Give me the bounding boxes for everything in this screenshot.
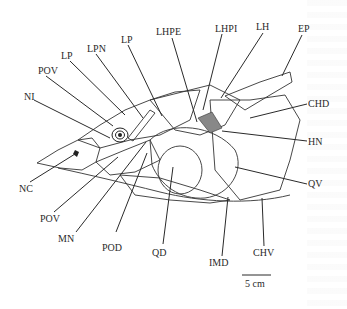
leader-lhpi: [203, 34, 222, 110]
label-pov-top: POV: [38, 65, 59, 76]
label-imd: IMD: [209, 257, 228, 268]
leader-ni: [34, 100, 110, 138]
epaxial-band: [225, 72, 292, 110]
hyohyoid-region: [210, 95, 300, 200]
scale-bar: 5 cm: [242, 275, 271, 289]
leader-lh: [221, 33, 263, 98]
leader-lhpe: [172, 38, 197, 122]
eye: [112, 128, 128, 142]
snout-region: [37, 138, 100, 170]
anatomy-diagram: NI POV LP LPN LP LHPE LHPI LH EP CHD HN …: [0, 0, 347, 309]
leader-lp-left: [70, 61, 125, 115]
scale-bar-label: 5 cm: [245, 278, 265, 289]
leader-chd: [250, 104, 307, 118]
label-lpn: LPN: [87, 43, 106, 54]
label-lhpi: LHPI: [215, 23, 237, 34]
label-chv: CHV: [253, 247, 275, 258]
qd-oval: [158, 146, 202, 194]
label-ni: NI: [24, 91, 35, 102]
label-lh: LH: [256, 21, 269, 32]
leader-lines: [30, 33, 307, 256]
label-ep: EP: [298, 23, 310, 34]
dorsal-head-muscle: [78, 90, 200, 148]
label-mn: MN: [58, 233, 74, 244]
leader-hn: [222, 131, 307, 141]
label-pod: POD: [102, 242, 122, 253]
levator-region: [150, 85, 240, 135]
opercular-region: [150, 128, 238, 199]
leader-qv: [235, 167, 307, 184]
label-qd: QD: [152, 247, 166, 258]
labels: NI POV LP LPN LP LHPE LHPI LH EP CHD HN …: [19, 21, 329, 268]
label-lhpe: LHPE: [156, 26, 181, 37]
label-qv: QV: [308, 178, 323, 189]
label-pov-bottom: POV: [40, 213, 61, 224]
label-lp-right: LP: [121, 34, 133, 45]
leader-chv: [262, 198, 264, 246]
label-lp-left: LP: [61, 50, 73, 61]
nostril: [73, 150, 79, 157]
label-hn: HN: [308, 136, 322, 147]
leader-pov-bottom: [54, 157, 118, 212]
label-chd: CHD: [308, 98, 329, 109]
leader-nc: [30, 154, 75, 182]
leader-pod: [116, 153, 147, 232]
fish-head-drawing: [37, 72, 300, 203]
label-nc: NC: [19, 183, 33, 194]
leader-imd: [222, 197, 228, 256]
leader-qd: [163, 167, 173, 244]
leader-pov-top: [46, 76, 113, 126]
leader-lpn: [96, 54, 143, 118]
leader-ep: [282, 35, 302, 76]
